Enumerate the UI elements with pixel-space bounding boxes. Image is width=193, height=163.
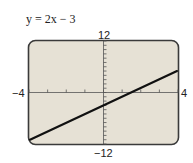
x-min-label: −4 bbox=[12, 87, 25, 99]
graph-canvas bbox=[0, 0, 193, 163]
x-max-label: 4 bbox=[181, 87, 187, 99]
y-min-label: −12 bbox=[94, 147, 113, 159]
y-max-label: 12 bbox=[98, 29, 110, 41]
